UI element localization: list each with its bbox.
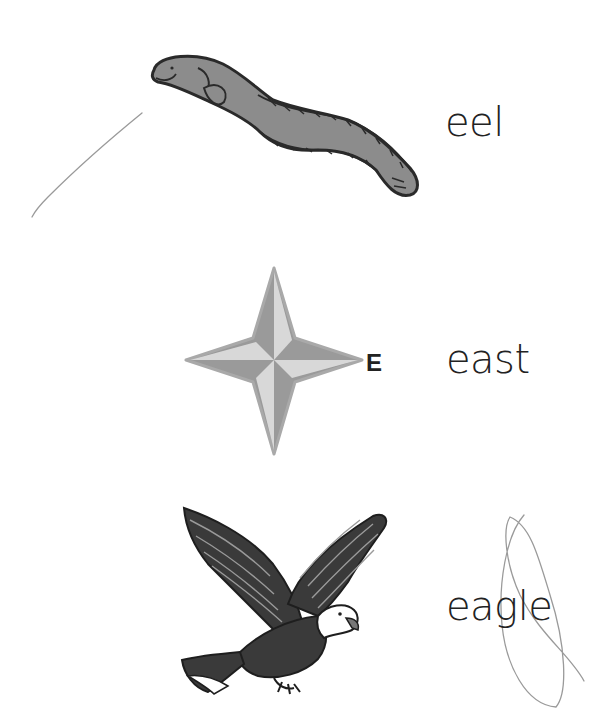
word-eagle: eagle xyxy=(446,586,552,626)
eel-illustration xyxy=(148,50,428,200)
word-eel: eel xyxy=(445,102,504,142)
eagle-illustration xyxy=(178,504,396,700)
compass-east-label: E xyxy=(366,349,382,377)
compass-star-illustration xyxy=(182,266,367,456)
word-east: east xyxy=(446,339,530,379)
pencil-stroke-mark xyxy=(20,105,150,220)
